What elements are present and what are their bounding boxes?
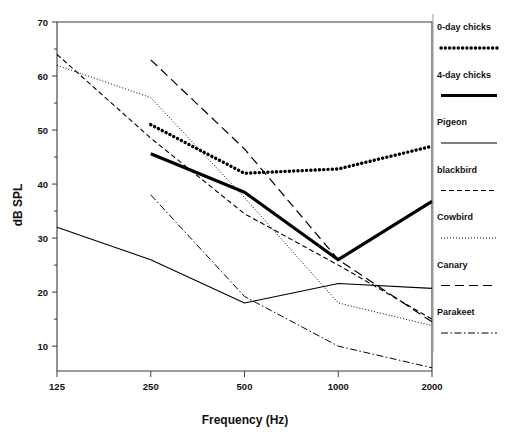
data-series-group bbox=[57, 54, 432, 367]
x-tick-label: 125 bbox=[49, 381, 66, 392]
x-axis: 12525050010002000 bbox=[49, 371, 443, 392]
x-axis-title: Frequency (Hz) bbox=[202, 413, 289, 427]
y-tick-label: 60 bbox=[37, 71, 48, 82]
y-tick-label: 20 bbox=[37, 287, 48, 298]
series-line-parakeet bbox=[151, 195, 432, 368]
legend-label-pigeon: Pigeon bbox=[437, 117, 467, 127]
series-line-0-day-chicks bbox=[151, 125, 432, 174]
x-tick-label: 1000 bbox=[328, 381, 349, 392]
legend-label-0-day-chicks: 0-day chicks bbox=[437, 22, 491, 32]
y-tick-label: 70 bbox=[37, 17, 48, 28]
series-line-canary bbox=[151, 60, 432, 322]
legend-label-canary: Canary bbox=[437, 260, 468, 270]
y-tick-label: 10 bbox=[37, 341, 48, 352]
y-axis: 10203040506070 bbox=[37, 17, 57, 352]
chart-legend: 0-day chicks4-day chicksPigeonblackbirdC… bbox=[433, 14, 497, 352]
y-axis-title: dB SPL bbox=[11, 184, 25, 227]
legend-label-blackbird: blackbird bbox=[437, 165, 477, 175]
legend-label-parakeet: Parakeet bbox=[437, 307, 475, 317]
x-tick-label: 2000 bbox=[421, 381, 442, 392]
plot-frame bbox=[57, 22, 432, 371]
legend-label-4-day-chicks: 4-day chicks bbox=[437, 70, 491, 80]
series-line-blackbird bbox=[57, 54, 432, 319]
series-line-pigeon bbox=[57, 227, 432, 303]
series-line-4-day-chicks bbox=[151, 154, 432, 260]
legend-label-cowbird: Cowbird bbox=[437, 212, 473, 222]
y-tick-label: 50 bbox=[37, 125, 48, 136]
audiogram-line-chart: 10203040506070 12525050010002000 dB SPL … bbox=[0, 0, 511, 441]
y-tick-label: 30 bbox=[37, 233, 48, 244]
y-tick-label: 40 bbox=[37, 179, 48, 190]
x-tick-label: 250 bbox=[143, 381, 159, 392]
chart-figure: 10203040506070 12525050010002000 dB SPL … bbox=[0, 0, 511, 441]
x-tick-label: 500 bbox=[237, 381, 253, 392]
